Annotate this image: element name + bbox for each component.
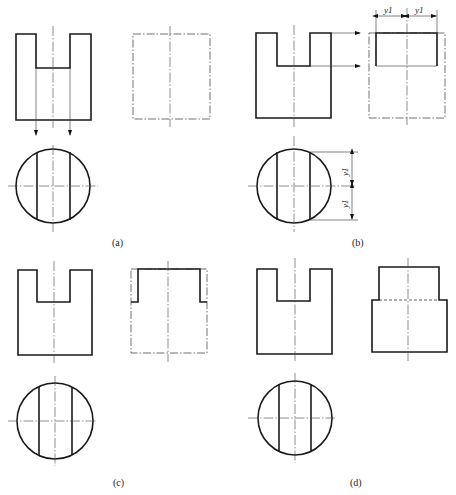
dim-text-y1-right: y1 [414,5,424,15]
front-view-outline [18,270,92,355]
side-view-phantom [133,34,210,119]
side-view-phantom [131,269,207,353]
dim-text-y1-upper: y1 [340,168,350,178]
front-view-outline [257,269,332,354]
panel-a: (a) [8,26,210,249]
panel-c: (c) [8,261,207,489]
panel-label-d: (d) [350,477,362,489]
dim-text-y1-left: y1 [383,5,393,15]
panel-b: y1 y1 y1 y1 (b) [248,5,445,249]
panel-label-a: (a) [112,237,123,249]
side-view-outline [372,267,447,352]
panel-label-b: (b) [352,237,364,249]
front-view-outline [16,34,91,120]
dim-text-y1-lower: y1 [340,200,350,210]
side-view-upper-solid [131,269,207,302]
front-view-outline [256,33,331,118]
panel-d: (d) [248,258,447,489]
orthographic-projection-figure: (a) y1 y1 y1 y1 (b) [0,0,456,495]
panel-label-c: (c) [113,477,124,489]
side-view-upper-solid [376,33,437,66]
